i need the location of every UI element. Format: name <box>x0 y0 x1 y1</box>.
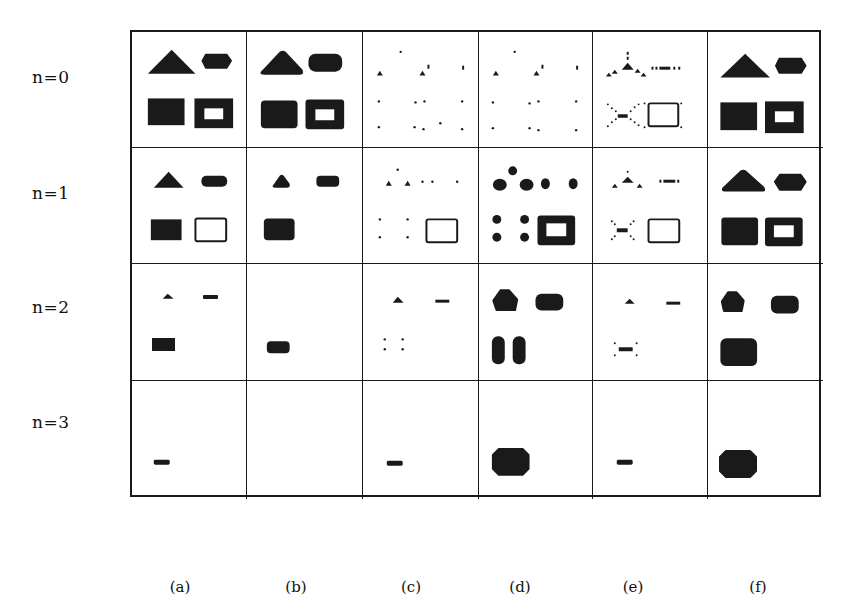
cell-d-n0 <box>479 32 593 148</box>
cell-a-n3 <box>132 381 247 499</box>
octagon-icon <box>708 381 823 499</box>
skeleton-shapes-icon <box>593 148 707 263</box>
row-label-n2: n=2 <box>32 297 70 317</box>
cell-c-n3 <box>363 381 479 499</box>
shape-set-icon <box>247 148 362 263</box>
cell-f-n1 <box>708 148 823 264</box>
dots-and-rect-icon <box>363 148 478 263</box>
row-label-n0: n=0 <box>32 67 70 87</box>
cell-d-n2 <box>479 264 593 381</box>
cell-e-n0 <box>593 32 708 148</box>
cell-a-n0 <box>132 32 247 148</box>
cell-b-n3 <box>247 381 363 499</box>
shape-set-icon <box>247 32 362 147</box>
cell-f-n3 <box>708 381 823 499</box>
cell-c-n1 <box>363 148 479 264</box>
dots-and-shapes-icon <box>363 264 478 380</box>
cell-e-n1 <box>593 148 708 264</box>
sparse-dots-icon <box>479 32 592 147</box>
column-label-b: (b) <box>285 578 306 596</box>
column-label-f: (f) <box>749 578 766 596</box>
shape-set-icon <box>708 148 823 263</box>
skeleton-shapes-icon <box>593 32 707 147</box>
column-label-c: (c) <box>401 578 421 596</box>
shape-set-icon <box>132 148 246 263</box>
cell-b-n1 <box>247 148 363 264</box>
column-label-d: (d) <box>509 578 530 596</box>
cell-c-n0 <box>363 32 479 148</box>
cell-a-n2-extras-icon <box>130 262 245 379</box>
shape-set-icon <box>708 264 823 380</box>
cell-e-n2 <box>593 264 708 381</box>
cell-b-n2 <box>247 264 363 381</box>
bar-icon <box>363 381 478 499</box>
bar-icon <box>593 381 707 499</box>
row-label-n3: n=3 <box>32 412 70 432</box>
blobs-icon <box>479 264 592 380</box>
cell-f-n2 <box>708 264 823 381</box>
octagon-icon <box>479 381 592 499</box>
cell-d-n1 <box>479 148 593 264</box>
column-label-a: (a) <box>170 578 191 596</box>
row-label-n1: n=1 <box>32 183 70 203</box>
sparse-dots-icon <box>363 32 478 147</box>
shape-set-icon <box>132 32 246 147</box>
cell-d-n3 <box>479 381 593 499</box>
blobs-icon <box>479 148 592 263</box>
bar-icon <box>132 381 246 499</box>
cell-b-n0 <box>247 32 363 148</box>
cell-c-n2 <box>363 264 479 381</box>
shape-set-icon <box>247 264 362 380</box>
cell-f-n0 <box>708 32 823 148</box>
column-label-e: (e) <box>623 578 644 596</box>
cell-a-n1 <box>132 148 247 264</box>
skeleton-shapes-icon <box>593 264 707 380</box>
cell-e-n3 <box>593 381 708 499</box>
shape-set-icon <box>708 32 823 147</box>
